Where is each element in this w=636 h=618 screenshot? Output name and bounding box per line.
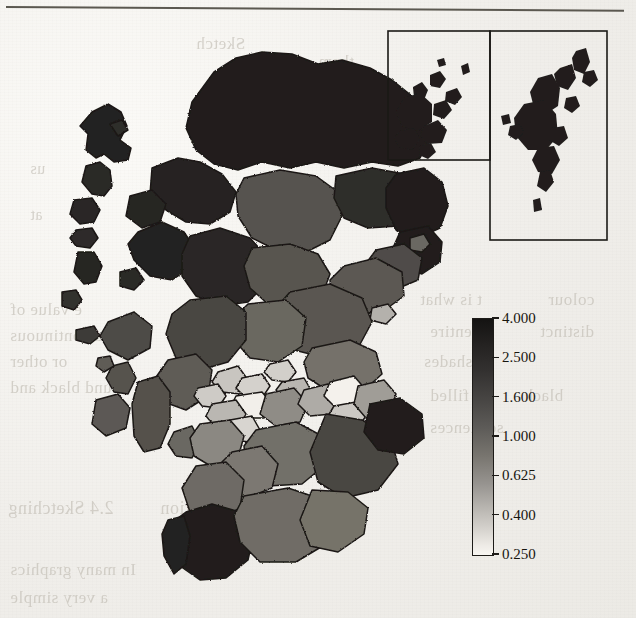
region-kintyre[interactable] (132, 376, 170, 452)
colorbar-tick-1 (492, 357, 499, 359)
region-polygon-group (62, 52, 448, 580)
colorbar-tick-5 (492, 514, 499, 516)
colorbar-tick-label-5: 0.400 (502, 506, 536, 523)
colorbar-tick-label-1: 2.500 (502, 349, 536, 366)
colorbar-tick-2 (492, 396, 499, 398)
region-south-uist[interactable] (74, 252, 102, 284)
shetland-islands-shapes[interactable] (501, 48, 598, 212)
region-small-isles[interactable] (120, 268, 144, 290)
colorbar-tick-label-3: 1.000 (502, 428, 536, 445)
region-barra[interactable] (62, 290, 82, 310)
region-dundee[interactable] (370, 304, 396, 324)
shetland-inset (490, 31, 607, 240)
colorbar-tick-4 (492, 475, 499, 477)
region-clackmannanshire[interactable] (264, 360, 296, 382)
colorbar-tick-label-4: 0.625 (502, 467, 536, 484)
colorbar-tick-6 (492, 553, 499, 555)
region-north-uist[interactable] (70, 198, 100, 224)
region-benbecula[interactable] (70, 228, 98, 248)
region-coll-tiree[interactable] (76, 326, 100, 344)
region-aberdeenshire-north[interactable] (386, 168, 448, 238)
orkney-islands-shapes[interactable] (394, 58, 470, 159)
colorbar-legend: 4.0002.5001.6001.0000.6250.4000.250 (470, 314, 610, 558)
region-islay[interactable] (92, 394, 130, 436)
region-annandale[interactable] (300, 490, 368, 552)
region-sutherland-caithness[interactable] (186, 52, 430, 170)
region-mull[interactable] (100, 312, 152, 360)
colorbar-tick-3 (492, 435, 499, 437)
region-lewis-south[interactable] (82, 162, 112, 196)
colorbar-tick-0 (492, 317, 499, 319)
colorbar-tick-label-6: 0.250 (502, 546, 536, 563)
colorbar-tick-label-0: 4.000 (502, 310, 536, 327)
colorbar-tick-label-2: 1.600 (502, 388, 536, 405)
colorbar-gradient-bar[interactable] (472, 318, 494, 556)
